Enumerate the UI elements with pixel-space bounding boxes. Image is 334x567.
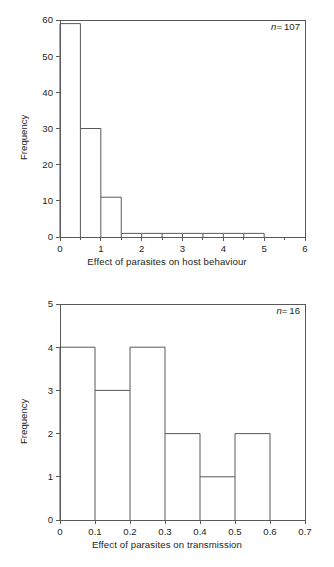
y-tick-label: 30: [42, 123, 53, 134]
plot-area-top: 01020304050600123456: [0, 0, 334, 284]
y-tick-label: 4: [48, 342, 54, 353]
y-tick-label: 60: [42, 14, 53, 25]
x-tick-label: 2: [139, 243, 144, 254]
sample-size-equals-top: =: [276, 21, 282, 32]
y-tick-label: 0: [48, 231, 53, 242]
y-tick-label: 40: [42, 87, 53, 98]
histogram-bars: [60, 24, 264, 237]
sample-size-equals-bottom: =: [282, 305, 288, 316]
y-tick-label: 0: [48, 514, 53, 525]
x-tick-label: 1: [98, 243, 103, 254]
sample-size-value-bottom: 16: [289, 305, 300, 316]
x-tick-label: 0: [57, 243, 62, 254]
x-tick-label: 0.4: [193, 526, 207, 537]
x-axis-title-bottom: Effect of parasites on transmission: [0, 539, 334, 550]
y-axis-ticks: 012345: [48, 298, 60, 525]
x-tick-label: 0.2: [123, 526, 136, 537]
axis-frame: [60, 304, 305, 520]
y-tick-label: 10: [42, 195, 53, 206]
y-tick-label: 50: [42, 51, 53, 62]
chart-panel-top: 01020304050600123456 Frequency Effect of…: [0, 0, 334, 284]
x-axis-ticks: 00.10.20.30.40.50.60.7: [57, 520, 311, 537]
y-tick-label: 20: [42, 159, 53, 170]
x-tick-label: 0.6: [263, 526, 276, 537]
y-tick-label: 1: [48, 471, 53, 482]
x-tick-label: 0: [57, 526, 62, 537]
x-axis-title-top: Effect of parasites on host behaviour: [0, 256, 334, 267]
x-tick-label: 0.3: [158, 526, 171, 537]
sample-size-value-top: 107: [284, 21, 300, 32]
y-axis-ticks: 0102030405060: [42, 14, 60, 242]
sample-size-annotation-bottom: n= 16: [276, 305, 300, 316]
plot-area-bottom: 01234500.10.20.30.40.50.60.7: [0, 284, 334, 567]
x-tick-label: 4: [221, 243, 227, 254]
y-tick-label: 2: [48, 428, 53, 439]
x-axis-ticks: 0123456: [57, 237, 307, 254]
y-axis-title-top: Frequency: [18, 115, 29, 160]
y-tick-label: 5: [48, 298, 53, 309]
sample-size-annotation-top: n= 107: [271, 21, 300, 32]
x-tick-label: 5: [261, 243, 266, 254]
x-tick-label: 6: [302, 243, 307, 254]
x-tick-label: 3: [180, 243, 185, 254]
y-axis-title-bottom: Frequency: [18, 399, 29, 444]
x-tick-label: 0.7: [298, 526, 311, 537]
bar-separators: [80, 129, 243, 238]
x-tick-label: 0.5: [228, 526, 241, 537]
chart-panel-bottom: 01234500.10.20.30.40.50.60.7 Frequency E…: [0, 284, 334, 567]
figure-histogram-pair: 01020304050600123456 Frequency Effect of…: [0, 0, 334, 567]
x-tick-label: 0.1: [88, 526, 101, 537]
y-tick-label: 3: [48, 385, 53, 396]
